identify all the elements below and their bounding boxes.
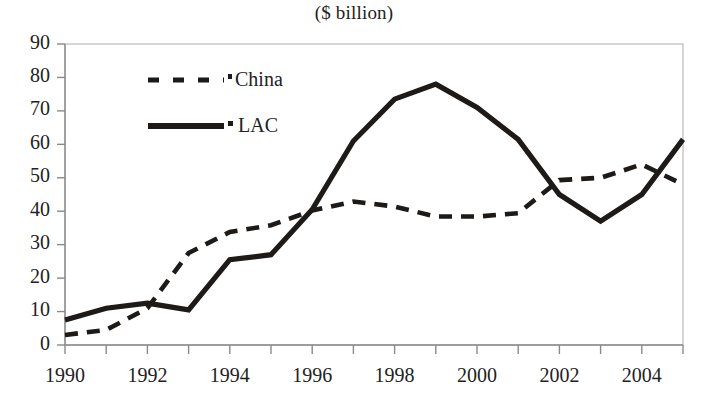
x-tick-label: 2004 bbox=[622, 364, 662, 386]
chart-container: ($ billion) 0102030405060708090 19901992… bbox=[0, 0, 708, 400]
chart-legend: China LAC bbox=[148, 68, 283, 136]
plot-border bbox=[65, 44, 683, 345]
y-tick-label: 80 bbox=[30, 64, 50, 86]
legend-marker-china bbox=[228, 74, 232, 79]
plot-frame bbox=[65, 44, 683, 345]
y-tick-label: 20 bbox=[30, 265, 50, 287]
x-tick-label: 2002 bbox=[539, 364, 579, 386]
legend-marker-lac bbox=[228, 121, 233, 126]
y-tick-label: 70 bbox=[30, 97, 50, 119]
y-tick-label: 60 bbox=[30, 131, 50, 153]
legend-label-lac: LAC bbox=[238, 114, 278, 136]
y-tick-label: 40 bbox=[30, 198, 50, 220]
series-line-lac bbox=[65, 84, 683, 320]
y-tick-label: 90 bbox=[30, 31, 50, 53]
x-tick-label: 1998 bbox=[375, 364, 415, 386]
y-tick-label: 0 bbox=[40, 332, 50, 354]
y-tick-labels: 0102030405060708090 bbox=[30, 31, 50, 354]
x-tick-marks bbox=[65, 345, 683, 354]
x-tick-label: 1990 bbox=[45, 364, 85, 386]
plot-area: 0102030405060708090 19901992199419961998… bbox=[0, 0, 708, 400]
x-tick-label: 2000 bbox=[457, 364, 497, 386]
y-tick-label: 30 bbox=[30, 231, 50, 253]
x-tick-label: 1996 bbox=[292, 364, 332, 386]
series-line-china bbox=[65, 164, 683, 335]
x-tick-labels: 19901992199419961998200020022004 bbox=[45, 364, 662, 386]
data-series-group bbox=[65, 84, 683, 335]
line-chart-svg: 0102030405060708090 19901992199419961998… bbox=[0, 0, 708, 400]
x-tick-label: 1992 bbox=[127, 364, 167, 386]
y-tick-label: 50 bbox=[30, 164, 50, 186]
x-tick-label: 1994 bbox=[210, 364, 250, 386]
legend-label-china: China bbox=[235, 68, 283, 90]
y-tick-label: 10 bbox=[30, 298, 50, 320]
y-tick-marks bbox=[57, 44, 65, 345]
